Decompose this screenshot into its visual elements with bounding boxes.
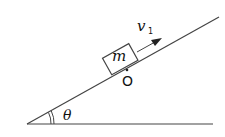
- incline-line: [27, 17, 219, 124]
- mass-label: m: [112, 47, 126, 65]
- arrow-head-icon: [151, 38, 162, 46]
- diagram-canvas: m v 1 O θ: [0, 0, 225, 137]
- angle-label: θ: [63, 107, 72, 123]
- point-o-label: O: [122, 73, 133, 89]
- incline-diagram: m v 1 O θ: [0, 0, 225, 137]
- velocity-subscript: 1: [148, 27, 153, 36]
- velocity-arrow-line: [137, 42, 155, 52]
- angle-arc-icon: [49, 111, 55, 124]
- point-o-marker: [126, 69, 129, 72]
- velocity-label: v: [137, 17, 146, 35]
